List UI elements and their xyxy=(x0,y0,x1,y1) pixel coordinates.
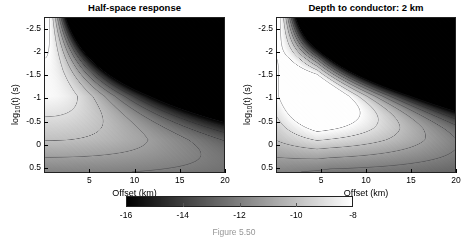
y-tick xyxy=(44,168,48,169)
y-tick xyxy=(276,52,280,53)
y-tick xyxy=(44,75,48,76)
ylabel-prefix: log xyxy=(10,113,20,125)
y-tick-label: -2 xyxy=(18,46,41,56)
x-tick xyxy=(225,169,226,173)
y-tick xyxy=(44,52,48,53)
y-tick xyxy=(44,29,48,30)
y-tick-label: -1.5 xyxy=(18,69,41,79)
x-tick xyxy=(411,169,412,173)
colorbar-tick xyxy=(183,203,184,207)
ylabel-subscript: 10 xyxy=(14,106,21,113)
y-tick-label: -0.5 xyxy=(250,116,273,126)
y-tick xyxy=(276,168,280,169)
x-tick xyxy=(180,169,181,173)
y-tick-label: -2 xyxy=(250,46,273,56)
x-tick-label: 20 xyxy=(215,175,235,185)
ylabel-subscript: 10 xyxy=(246,106,253,113)
y-tick-label: -1.5 xyxy=(250,69,273,79)
x-tick-label: 15 xyxy=(170,175,190,185)
x-tick xyxy=(456,169,457,173)
y-tick-label: -2.5 xyxy=(250,23,273,33)
y-tick-label: 0.5 xyxy=(18,162,41,172)
ylabel-suffix: (t) (s) xyxy=(242,84,252,106)
panel-left-title: Half-space response xyxy=(44,2,225,13)
x-tick xyxy=(89,169,90,173)
figure-root: Half-space response 5101520-2.5-2-1.5-1-… xyxy=(0,0,468,237)
y-tick xyxy=(276,75,280,76)
colorbar-tick xyxy=(296,203,297,207)
y-tick-label: -1 xyxy=(250,92,273,102)
x-tick-label: 10 xyxy=(125,175,145,185)
colorbar-tick-label: -12 xyxy=(224,210,256,220)
x-tick-label: 20 xyxy=(446,175,466,185)
panel-right-image xyxy=(277,18,455,172)
y-tick xyxy=(44,122,48,123)
figure-caption: Figure 5.50 xyxy=(0,227,468,237)
colorbar-tick-label: -14 xyxy=(167,210,199,220)
x-tick-label: 15 xyxy=(401,175,421,185)
ylabel-prefix: log xyxy=(242,113,252,125)
y-tick xyxy=(276,145,280,146)
y-tick-label: -1 xyxy=(18,92,41,102)
y-tick-label: 0 xyxy=(18,139,41,149)
panel-left-plot-area xyxy=(44,17,225,173)
colorbar-tick-label: -10 xyxy=(280,210,312,220)
y-tick-label: 0 xyxy=(250,139,273,149)
colorbar-tick-label: -8 xyxy=(337,210,369,220)
y-tick-label: 0.5 xyxy=(250,162,273,172)
x-tick xyxy=(321,169,322,173)
panel-right-title: Depth to conductor: 2 km xyxy=(276,2,456,13)
panel-right-ylabel: log10(t) (s) xyxy=(242,84,252,125)
ylabel-suffix: (t) (s) xyxy=(10,84,20,106)
y-tick xyxy=(276,98,280,99)
colorbar-tick-label: -16 xyxy=(110,210,142,220)
panel-left-image xyxy=(45,18,224,172)
y-tick-label: -0.5 xyxy=(18,116,41,126)
y-tick-label: -2.5 xyxy=(18,23,41,33)
colorbar-tick xyxy=(240,203,241,207)
x-tick-label: 5 xyxy=(79,175,99,185)
panel-left-ylabel: log10(t) (s) xyxy=(10,84,20,125)
x-tick xyxy=(135,169,136,173)
y-tick xyxy=(44,98,48,99)
y-tick xyxy=(44,145,48,146)
y-tick xyxy=(276,122,280,123)
panel-right-plot-area xyxy=(276,17,456,173)
x-tick-label: 10 xyxy=(356,175,376,185)
x-tick xyxy=(366,169,367,173)
y-tick xyxy=(276,29,280,30)
x-tick-label: 5 xyxy=(311,175,331,185)
